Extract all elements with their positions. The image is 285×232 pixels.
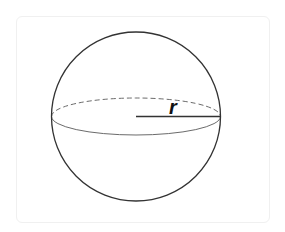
equator-back-dashed <box>52 98 221 117</box>
sphere-diagram: r <box>0 0 285 232</box>
radius-label: r <box>169 96 178 118</box>
equator-front-solid <box>52 117 221 136</box>
